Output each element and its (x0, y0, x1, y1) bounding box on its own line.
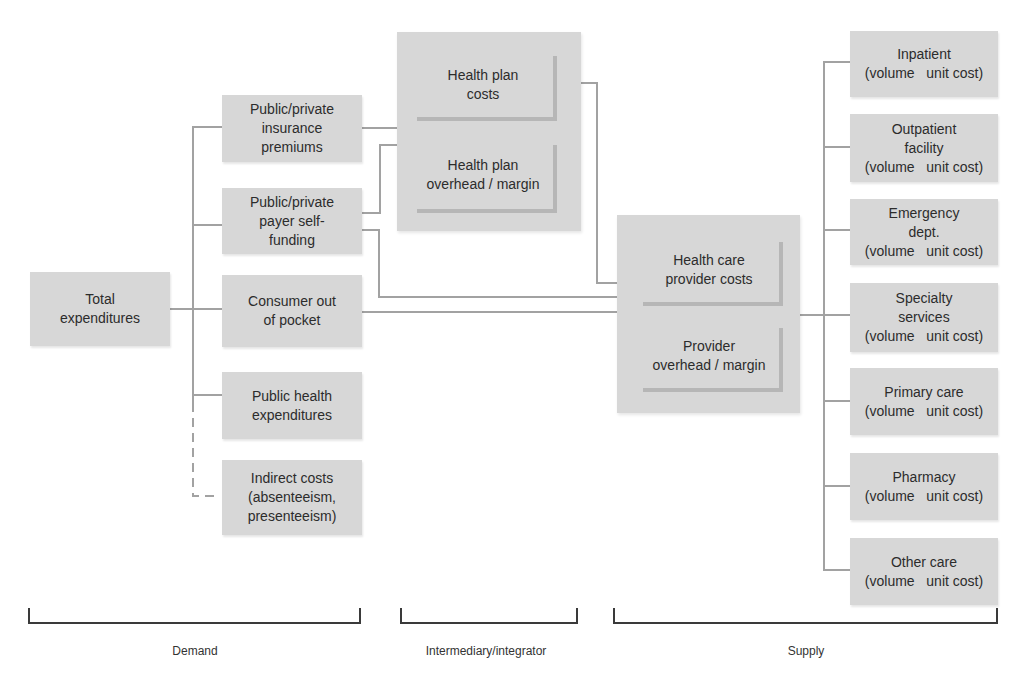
health-plan-overhead-label: Health plan overhead / margin (427, 156, 540, 194)
health-expenditure-flow-diagram: Total expenditures Public/private insura… (0, 0, 1026, 682)
bracket-supply (614, 608, 997, 623)
primary-care-label: Primary care (volume unit cost) (865, 383, 983, 421)
health-plan-costs-box: Health plan costs (413, 52, 553, 117)
public-health-expenditures-label: Public health expenditures (252, 387, 332, 425)
provider-overhead-box: Provider overhead / margin (639, 324, 779, 388)
provider-overhead-label: Provider overhead / margin (653, 337, 766, 375)
total-expenditures-label: Total expenditures (60, 290, 140, 328)
inpatient-box: Inpatient (volume unit cost) (850, 31, 998, 97)
specialty-services-label: Specialty services (volume unit cost) (865, 289, 983, 346)
outpatient-facility-label: Outpatient facility (volume unit cost) (865, 120, 983, 177)
health-plan-costs-label: Health plan costs (448, 66, 519, 104)
provider-costs-label: Health care provider costs (665, 251, 752, 289)
health-plan-overhead-box: Health plan overhead / margin (413, 141, 553, 209)
inpatient-label: Inpatient (volume unit cost) (865, 45, 983, 83)
total-expenditures-box: Total expenditures (30, 272, 170, 346)
bracket-intermediary (401, 608, 577, 623)
pharmacy-box: Pharmacy (volume unit cost) (850, 453, 998, 520)
consumer-out-of-pocket-label: Consumer out of pocket (248, 292, 336, 330)
supply-label: Supply (788, 644, 825, 658)
bracket-demand (29, 608, 360, 623)
connector-self-funding-to-health-plan (362, 145, 397, 213)
insurance-premiums-label: Public/private insurance premiums (250, 100, 334, 157)
indirect-costs-box: Indirect costs (absenteeism, presenteeis… (222, 460, 362, 535)
intermediary-label: Intermediary/integrator (426, 644, 547, 658)
outpatient-facility-box: Outpatient facility (volume unit cost) (850, 114, 998, 182)
connector-self-funding-to-provider (362, 230, 617, 297)
insurance-premiums-box: Public/private insurance premiums (222, 95, 362, 162)
provider-group: Health care provider costs Provider over… (617, 215, 800, 413)
pharmacy-label: Pharmacy (volume unit cost) (865, 468, 983, 506)
public-health-expenditures-box: Public health expenditures (222, 372, 362, 439)
other-care-label: Other care (volume unit cost) (865, 553, 983, 591)
demand-label: Demand (172, 644, 217, 658)
other-care-box: Other care (volume unit cost) (850, 538, 998, 605)
emergency-dept-label: Emergency dept. (volume unit cost) (865, 204, 983, 261)
health-plan-group: Health plan costs Health plan overhead /… (397, 32, 581, 231)
emergency-dept-box: Emergency dept. (volume unit cost) (850, 199, 998, 265)
indirect-costs-label: Indirect costs (absenteeism, presenteeis… (248, 469, 337, 526)
payer-self-funding-box: Public/private payer self- funding (222, 188, 362, 254)
primary-care-box: Primary care (volume unit cost) (850, 368, 998, 435)
provider-costs-box: Health care provider costs (639, 238, 779, 302)
consumer-out-of-pocket-box: Consumer out of pocket (222, 275, 362, 347)
payer-self-funding-label: Public/private payer self- funding (250, 193, 334, 250)
connector-to-indirect-dashed (193, 403, 216, 496)
specialty-services-box: Specialty services (volume unit cost) (850, 283, 998, 352)
